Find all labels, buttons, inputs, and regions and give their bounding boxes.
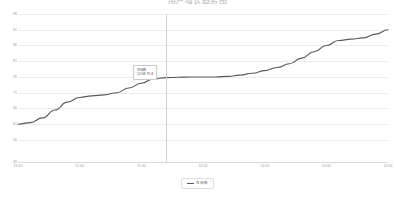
plot-area: 在线数 12:08 75.8 — [18, 14, 388, 162]
chart-title: 用户增长趋势图 — [0, 0, 395, 6]
x-tick-label: 13:00 — [250, 164, 280, 169]
x-tick-label: 11:00 — [65, 164, 95, 169]
crosshair-vertical-line — [166, 14, 167, 162]
legend-line-swatch — [187, 183, 194, 184]
y-tick-label: 61 — [4, 122, 17, 126]
y-tick-label: 56 — [4, 138, 17, 142]
series-line-online-count — [18, 14, 388, 162]
tooltip-value: 12:08 75.8 — [137, 72, 153, 77]
y-tick-label: 86 — [4, 43, 17, 47]
x-tick-label: 14:00 — [311, 164, 341, 169]
y-tick-label: 76 — [4, 75, 17, 79]
y-tick-label: 71 — [4, 91, 17, 95]
legend-label: 在线数 — [196, 181, 208, 186]
x-tick-label: 12:32 — [188, 164, 218, 169]
y-tick-label: 66 — [4, 106, 17, 110]
legend: 在线数 — [0, 178, 395, 189]
x-tick-label: 14:32 — [373, 164, 395, 169]
y-tick-label: 81 — [4, 59, 17, 63]
y-tick-label: 96 — [4, 12, 17, 16]
y-tick-label: 91 — [4, 28, 17, 32]
x-tick-label: 11:40 — [126, 164, 156, 169]
tooltip: 在线数 12:08 75.8 — [133, 65, 157, 80]
legend-item-online-count[interactable]: 在线数 — [181, 178, 214, 189]
x-axis-baseline — [18, 162, 388, 163]
line-chart-widget: 用户增长趋势图 访问量 96918681767166615649 在线数 12:… — [0, 0, 395, 203]
series-path — [18, 30, 388, 124]
x-tick-label: 10:32 — [3, 164, 33, 169]
